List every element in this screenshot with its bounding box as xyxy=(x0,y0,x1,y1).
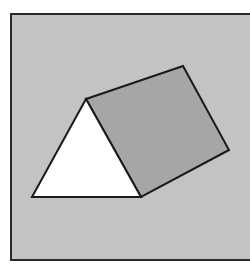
diagram-canvas xyxy=(0,0,250,265)
